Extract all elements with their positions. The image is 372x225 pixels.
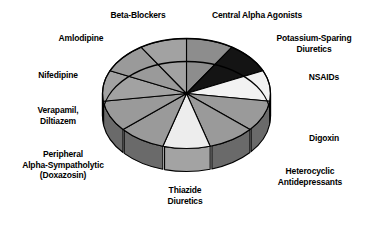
slice-label-peripheral-alpha-sympatholytic: Peripheral Alpha-Sympatholytic (Doxazosi… [2, 149, 124, 181]
slice-label-nifedipine: Nifedipine [14, 70, 102, 81]
slice-label-nsaids: NSAIDs [288, 72, 360, 83]
slice-label-potassium-sparing-diuretics: Potassium-Sparing Diuretics [258, 33, 370, 54]
slice-label-digoxin: Digoxin [288, 133, 360, 144]
pie-slice-side [165, 146, 211, 171]
slice-label-thiazide-diuretics: Thiazide Diuretics [140, 185, 230, 206]
slice-label-amlodipine: Amlodipine [34, 33, 128, 44]
pie-slices-group [103, 38, 271, 171]
slice-label-heterocyclic-antidepressants: Heterocyclic Antidepressants [252, 166, 368, 187]
pie-chart-figure: Beta-Blockers Central Alpha Agonists Pot… [0, 0, 372, 225]
slice-label-central-alpha-agonists: Central Alpha Agonists [196, 10, 318, 21]
slice-label-beta-blockers: Beta-Blockers [86, 10, 190, 21]
slice-label-verapamil-diltiazem: Verapamil, Diltiazem [12, 105, 104, 126]
